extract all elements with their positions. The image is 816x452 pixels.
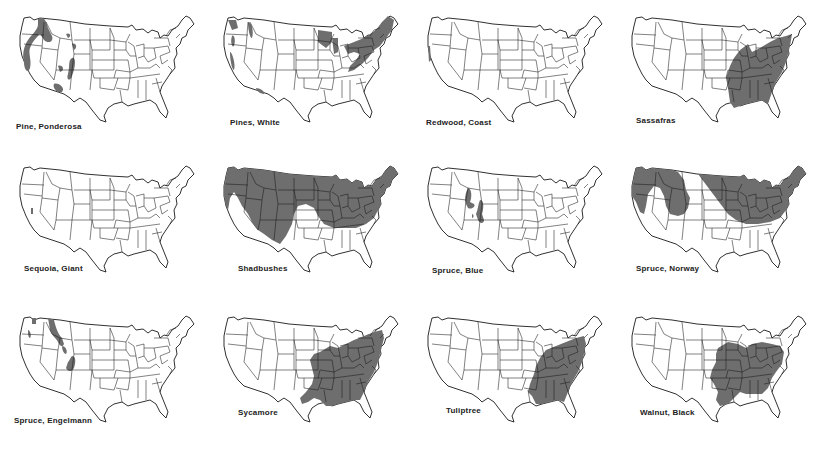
map-panel-white-pines: Pines, White (204, 0, 408, 150)
map-label: Sassafras (636, 116, 676, 125)
us-map-white-pines (214, 8, 404, 128)
map-label: Spruce, Blue (432, 266, 483, 275)
us-map-giant-sequoia (10, 158, 200, 278)
map-panel-black-walnut: Walnut, Black (612, 300, 816, 450)
map-label: Sycamore (238, 408, 278, 417)
map-label: Pines, White (230, 118, 280, 127)
range-giant-sequoia (31, 208, 33, 214)
us-map-norway-spruce (622, 158, 812, 278)
map-panel-giant-sequoia: Sequoia, Giant (0, 150, 204, 300)
map-panel-sassafras: Sassafras (612, 0, 816, 150)
map-label: Shadbushes (238, 264, 288, 273)
us-map-ponderosa-pine (10, 8, 200, 128)
map-panel-sycamore: Sycamore (204, 300, 408, 450)
range-map-grid: Pine, Ponderosa Pines, White Redwood, Co… (0, 0, 816, 452)
map-panel-coast-redwood: Redwood, Coast (408, 0, 612, 150)
us-map-coast-redwood (418, 8, 608, 128)
map-label: Walnut, Black (640, 408, 695, 417)
map-label: Sequoia, Giant (24, 264, 83, 273)
map-panel-norway-spruce: Spruce, Norway (612, 150, 816, 300)
map-label: Tuliptree (446, 406, 481, 415)
map-panel-shadbushes: Shadbushes (204, 150, 408, 300)
map-panel-tuliptree: Tuliptree (408, 300, 612, 450)
us-map-shadbushes (214, 158, 404, 278)
map-panel-blue-spruce: Spruce, Blue (408, 150, 612, 300)
us-map-sassafras (622, 8, 812, 128)
map-panel-engelmann-spruce: Spruce, Engelmann (0, 300, 204, 450)
map-label: Spruce, Engelmann (14, 416, 92, 425)
map-panel-ponderosa-pine: Pine, Ponderosa (0, 0, 204, 150)
us-map-blue-spruce (418, 158, 608, 278)
map-label: Spruce, Norway (636, 264, 699, 273)
map-label: Redwood, Coast (426, 118, 491, 127)
us-map-engelmann-spruce (10, 308, 200, 428)
map-label: Pine, Ponderosa (16, 122, 82, 131)
